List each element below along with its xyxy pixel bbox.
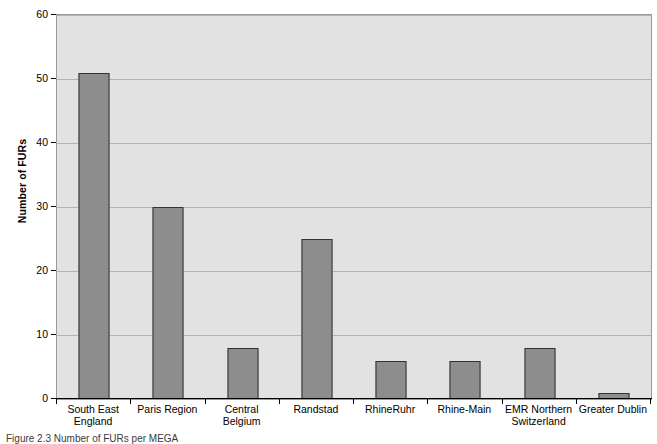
x-tick-label: Rhine-Main bbox=[427, 404, 501, 416]
bar-slot bbox=[354, 15, 428, 399]
y-tick-label: 30 bbox=[0, 201, 48, 211]
bar[interactable] bbox=[153, 207, 184, 399]
bar[interactable] bbox=[227, 348, 258, 399]
bar[interactable] bbox=[524, 348, 555, 399]
bar[interactable] bbox=[450, 361, 481, 399]
x-tick-label-line: RhineRuhr bbox=[353, 404, 427, 416]
y-tick-mark bbox=[51, 334, 56, 335]
x-tick-label: EMR NorthernSwitzerland bbox=[502, 404, 576, 427]
x-tick-label-line: Paris Region bbox=[130, 404, 204, 416]
x-axis-line bbox=[56, 398, 652, 399]
bar-slot bbox=[131, 15, 205, 399]
bar[interactable] bbox=[79, 73, 110, 399]
y-tick-mark bbox=[51, 206, 56, 207]
x-tick-label-line: Greater Dublin bbox=[576, 404, 650, 416]
y-tick-mark bbox=[51, 270, 56, 271]
y-tick-mark bbox=[51, 142, 56, 143]
bar[interactable] bbox=[301, 239, 332, 399]
y-tick-label: 60 bbox=[0, 9, 48, 19]
bar[interactable] bbox=[376, 361, 407, 399]
bar-series bbox=[57, 15, 651, 399]
x-tick-label: Randstad bbox=[279, 404, 353, 416]
x-tick-label-line: Rhine-Main bbox=[427, 404, 501, 416]
x-tick-label: RhineRuhr bbox=[353, 404, 427, 416]
x-tick-label-line: EMR Northern bbox=[502, 404, 576, 416]
bar-slot bbox=[503, 15, 577, 399]
x-tick-label-line: England bbox=[56, 416, 130, 428]
bar-slot bbox=[280, 15, 354, 399]
x-tick-label: Paris Region bbox=[130, 404, 204, 416]
y-axis-title: Number of FURs bbox=[16, 111, 28, 251]
x-tick-label-line: South East bbox=[56, 404, 130, 416]
y-tick-label: 20 bbox=[0, 265, 48, 275]
x-tick-label: Central Belgium bbox=[205, 404, 279, 427]
bar-slot bbox=[428, 15, 502, 399]
x-tick-mark bbox=[650, 399, 651, 404]
x-tick-label: South EastEngland bbox=[56, 404, 130, 427]
y-tick-mark bbox=[51, 14, 56, 15]
x-tick-label: Greater Dublin bbox=[576, 404, 650, 416]
bar-slot bbox=[57, 15, 131, 399]
x-tick-label-line: Switzerland bbox=[502, 416, 576, 428]
figure-caption: Figure 2.3 Number of FURs per MEGA bbox=[6, 433, 178, 444]
x-tick-label-line: Randstad bbox=[279, 404, 353, 416]
x-tick-label-line: Central Belgium bbox=[205, 404, 279, 427]
y-tick-label: 40 bbox=[0, 137, 48, 147]
y-tick-label: 50 bbox=[0, 73, 48, 83]
y-tick-label: 0 bbox=[0, 393, 48, 403]
bar-slot bbox=[577, 15, 651, 399]
bar-slot bbox=[206, 15, 280, 399]
y-tick-mark bbox=[51, 78, 56, 79]
y-tick-label: 10 bbox=[0, 329, 48, 339]
plot-area bbox=[56, 14, 652, 400]
